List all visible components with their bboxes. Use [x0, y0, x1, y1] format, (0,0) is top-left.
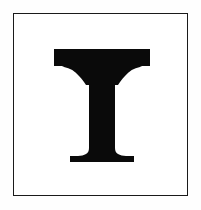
- letter-t-path: [54, 49, 150, 162]
- letter-card-frame: T: [13, 13, 188, 196]
- letter-t-icon: [54, 49, 150, 162]
- glyph-container: T: [14, 14, 189, 197]
- image-canvas: T: [0, 0, 201, 210]
